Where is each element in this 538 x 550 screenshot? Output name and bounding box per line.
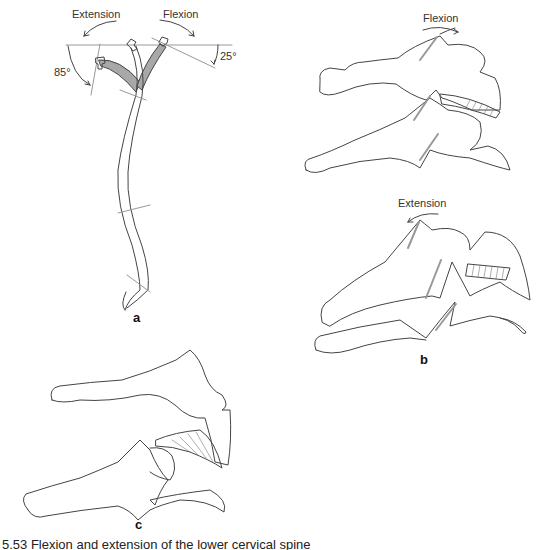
panel-a-spine-diagram [66,20,232,310]
panel-c-label: c [135,517,142,532]
panel-b-flexion-label: Flexion [423,12,458,24]
panel-a-label: a [133,310,140,325]
panel-b-extension-vertebrae [315,214,530,353]
panel-a-flexion-angle: 25° [220,50,237,62]
panel-c-neutral-vertebrae [23,350,230,520]
panel-a-flexion-label: Flexion [163,8,198,20]
figure-canvas [0,0,538,550]
panel-a-extension-angle: 85° [54,66,71,78]
panel-b-flexion-vertebrae [305,27,510,172]
figure-caption: 5.53 Flexion and extension of the lower … [0,538,538,550]
figure-caption-text: 5.53 Flexion and extension of the lower … [0,538,538,550]
panel-b-label: b [420,352,428,367]
panel-b-extension-label: Extension [398,197,446,209]
panel-a-extension-label: Extension [72,8,120,20]
